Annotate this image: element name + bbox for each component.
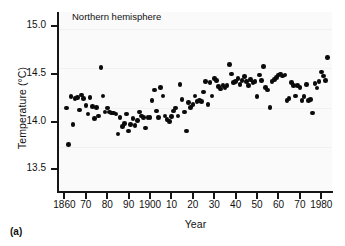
scatter-point xyxy=(193,94,198,99)
scatter-point xyxy=(154,109,159,114)
scatter-point xyxy=(124,112,129,117)
scatter-point xyxy=(176,114,181,119)
scatter-point xyxy=(317,79,322,84)
scatter-point xyxy=(315,86,320,91)
gridline-13-5 xyxy=(58,147,332,148)
scatter-point xyxy=(86,112,91,117)
scatter-point xyxy=(158,85,163,90)
scatter-point xyxy=(208,80,213,85)
scatter-point xyxy=(122,121,127,126)
scatter-point xyxy=(101,94,106,99)
scatter-point xyxy=(81,96,86,101)
scatter-point xyxy=(118,115,123,120)
scatter-point xyxy=(88,95,93,100)
scatter-point xyxy=(143,126,148,131)
scatter-point xyxy=(167,119,172,124)
scatter-point xyxy=(287,96,292,101)
scatter-point xyxy=(259,78,264,83)
y-axis-label: Temperature (°C) xyxy=(16,53,28,163)
scatter-point xyxy=(308,97,313,102)
scatter-point xyxy=(169,114,174,119)
y-tick xyxy=(51,168,57,170)
scatter-point xyxy=(229,72,234,77)
y-tick xyxy=(51,121,57,123)
scatter-point xyxy=(178,82,183,87)
x-axis-line xyxy=(57,191,333,193)
gridline-14-0 xyxy=(58,108,332,109)
scatter-point xyxy=(71,122,76,127)
scatter-point xyxy=(325,55,330,60)
gridline-15-0 xyxy=(58,29,332,30)
scatter-point xyxy=(246,83,251,88)
scatter-point xyxy=(261,64,266,69)
scatter-point xyxy=(173,106,178,111)
y-tick-label: 13.5 xyxy=(0,162,46,173)
scatter-point xyxy=(199,99,204,104)
scatter-point xyxy=(84,103,89,108)
scatter-point xyxy=(161,94,166,99)
scatter-point xyxy=(206,102,211,107)
scatter-point xyxy=(64,106,69,111)
x-axis-label: Year xyxy=(58,218,333,230)
y-axis-line xyxy=(57,12,59,193)
scatter-point xyxy=(257,73,262,78)
scatter-point xyxy=(293,94,298,99)
scatter-point xyxy=(210,94,215,99)
scatter-point xyxy=(96,114,101,119)
scatter-point xyxy=(150,98,155,103)
panel-tag-label: (a) xyxy=(10,226,22,237)
scatter-point xyxy=(180,97,185,102)
scatter-point xyxy=(184,129,189,134)
scatter-point xyxy=(227,62,232,67)
y-tick xyxy=(51,25,57,27)
scatter-point xyxy=(225,83,230,88)
scatter-point xyxy=(133,123,138,128)
scatter-point xyxy=(304,82,309,87)
y-tick-label: 15.0 xyxy=(0,19,46,30)
scatter-point xyxy=(148,115,153,120)
x-tick-label: 1980 xyxy=(296,199,345,210)
scatter-point xyxy=(77,108,82,113)
scatter-point xyxy=(283,73,288,78)
scatter-point xyxy=(182,110,187,115)
scatter-point xyxy=(310,111,315,116)
scatter-point xyxy=(214,78,219,83)
scatter-point xyxy=(201,90,206,95)
plot-area xyxy=(58,12,332,192)
scatter-point xyxy=(66,142,71,147)
scatter-point xyxy=(268,105,273,110)
plot-annotation-label: Northern hemisphere xyxy=(72,11,161,22)
scatter-point xyxy=(253,79,258,84)
scatter-point xyxy=(116,132,121,137)
scatter-point xyxy=(265,88,270,93)
scatter-point xyxy=(126,129,131,134)
scatter-point xyxy=(323,78,328,83)
scatter-point xyxy=(152,88,157,93)
y-tick xyxy=(51,73,57,75)
scatter-point xyxy=(135,118,140,123)
figure-panel-a: Northern hemisphere 13.514.014.515.0 186… xyxy=(0,0,345,246)
scatter-point xyxy=(156,115,161,120)
scatter-point xyxy=(94,105,99,110)
scatter-point xyxy=(99,65,104,70)
scatter-point xyxy=(298,85,303,90)
scatter-point xyxy=(255,94,260,99)
